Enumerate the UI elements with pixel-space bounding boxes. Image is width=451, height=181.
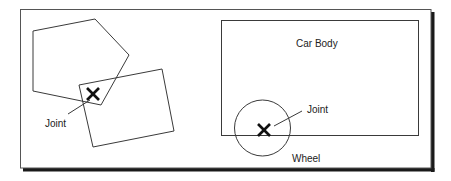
frame-shadow-right [431,12,435,172]
frame-shadow-bottom [23,168,435,172]
joint-label: Joint [307,104,328,115]
car-body-label: Car Body [296,38,338,49]
wheel-label: Wheel [292,153,320,164]
joint-label: Joint [45,118,66,129]
joint-diagram: Joint Car Body Joint Wheel [0,0,451,181]
diagram-frame [21,10,432,169]
